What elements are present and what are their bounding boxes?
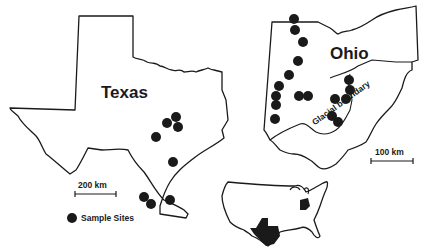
texas-scale-label: 200 km	[78, 180, 107, 190]
texas-label: Texas	[101, 83, 148, 103]
ohio-label: Ohio	[330, 44, 369, 64]
texas-scale-bar	[75, 191, 116, 197]
legend-site-icon	[67, 213, 77, 223]
map-graphics	[0, 0, 430, 252]
ohio-scale-label: 100 km	[375, 147, 404, 157]
ohio-outline	[264, 6, 418, 169]
ohio-scale-bar	[371, 158, 413, 164]
legend-sample-sites-label: Sample Sites	[81, 213, 134, 223]
sample-sites-map: Texas Ohio Glacial boundary 200 km 100 k…	[0, 0, 430, 252]
texas-outline	[10, 16, 228, 218]
